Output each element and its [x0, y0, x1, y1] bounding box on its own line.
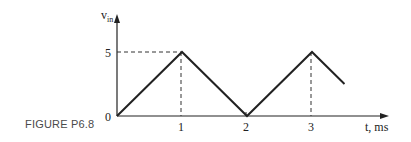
vin-waveform-line — [117, 52, 345, 116]
y-tick-0: 0 — [105, 110, 111, 124]
y-axis-arrow-icon — [114, 14, 120, 23]
x-axis-arrow-icon — [380, 113, 389, 119]
x-axis-label: t, ms — [365, 120, 389, 134]
x-tick-1: 1 — [178, 120, 184, 134]
y-tick-5: 5 — [105, 46, 111, 60]
x-tick-2: 2 — [243, 120, 249, 134]
x-tick-3: 3 — [308, 120, 314, 134]
y-axis-label: vin — [101, 8, 113, 24]
figure-caption: FIGURE P6.8 — [25, 118, 94, 130]
